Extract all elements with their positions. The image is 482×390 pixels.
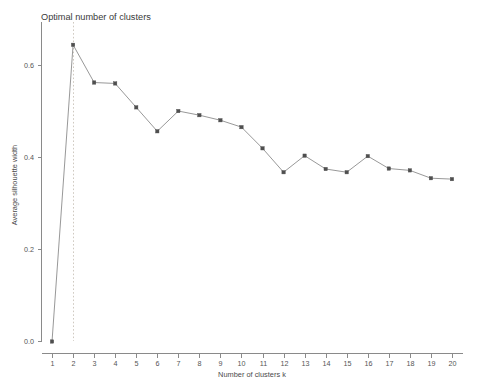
- data-point-k7: [177, 109, 180, 112]
- x-tick-label-19: 19: [428, 359, 436, 368]
- data-point-k9: [219, 119, 222, 122]
- x-tick-label-10: 10: [238, 359, 246, 368]
- x-tick-label-20: 20: [449, 359, 457, 368]
- x-axis-title: Number of clusters k: [218, 370, 286, 379]
- data-point-k14: [324, 167, 327, 170]
- y-axis-title: Average silhouette width: [10, 145, 19, 225]
- x-tick-label-13: 13: [302, 359, 310, 368]
- data-point-k8: [198, 113, 201, 116]
- y-tick-label-2: 0.4: [24, 153, 34, 162]
- data-point-k4: [113, 82, 116, 85]
- data-point-k18: [408, 169, 411, 172]
- silhouette-chart: Optimal number of clusters 0.0 0.2 0.4 0…: [0, 0, 482, 390]
- data-point-k6: [156, 130, 159, 133]
- series-marker-group: [50, 43, 453, 343]
- data-point-k16: [366, 154, 369, 157]
- x-tick-label-12: 12: [281, 359, 289, 368]
- x-tick-label-17: 17: [386, 359, 394, 368]
- x-axis: 1234567891011121314151617181920 Number o…: [42, 354, 463, 380]
- data-point-k19: [429, 177, 432, 180]
- data-point-k12: [282, 171, 285, 174]
- x-tick-label-7: 7: [177, 359, 181, 368]
- data-point-k20: [450, 177, 453, 180]
- x-tick-label-1: 1: [51, 359, 55, 368]
- silhouette-plot-root: Optimal number of clusters 0.0 0.2 0.4 0…: [0, 0, 482, 390]
- x-tick-label-15: 15: [344, 359, 352, 368]
- y-tick-label-1: 0.2: [24, 245, 34, 254]
- x-tick-label-6: 6: [156, 359, 160, 368]
- data-series: [50, 43, 453, 343]
- y-tick-label-3: 0.6: [24, 61, 34, 70]
- x-tick-label-18: 18: [407, 359, 415, 368]
- x-tick-label-14: 14: [323, 359, 331, 368]
- data-point-k11: [261, 147, 264, 150]
- x-tick-label-2: 2: [72, 359, 76, 368]
- x-tick-label-group: 1234567891011121314151617181920: [51, 359, 457, 368]
- data-point-k13: [303, 154, 306, 157]
- data-point-k2: [71, 43, 74, 46]
- x-tick-label-5: 5: [135, 359, 139, 368]
- x-tick-label-4: 4: [114, 359, 118, 368]
- x-tick-label-8: 8: [198, 359, 202, 368]
- chart-title: Optimal number of clusters: [41, 12, 151, 22]
- data-point-k17: [387, 167, 390, 170]
- series-line: [52, 45, 452, 342]
- data-point-k5: [135, 106, 138, 109]
- data-point-k3: [92, 81, 95, 84]
- x-tick-label-11: 11: [260, 359, 267, 368]
- y-axis: 0.0 0.2 0.4 0.6 Average silhouette width: [10, 22, 42, 346]
- data-point-k15: [345, 171, 348, 174]
- data-point-k1: [50, 340, 53, 343]
- x-tick-label-3: 3: [93, 359, 97, 368]
- x-tick-label-16: 16: [365, 359, 373, 368]
- x-tick-label-9: 9: [219, 359, 223, 368]
- x-tick-group: [53, 354, 453, 358]
- y-tick-label-0: 0.0: [24, 337, 34, 346]
- data-point-k10: [240, 125, 243, 128]
